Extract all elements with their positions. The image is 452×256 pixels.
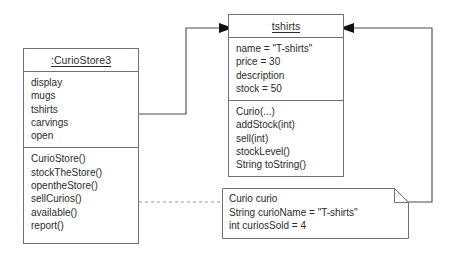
object-title-tshirts: tshirts [229,15,343,37]
operations-compartment-curiostore3: CurioStore() stockTheStore() opentheStor… [24,147,138,237]
operation-row: stockTheStore() [31,166,138,179]
note-line: String curioName = "T-shirts" [229,206,405,220]
operation-row: available() [31,206,138,219]
attributes-compartment-curiostore3: display mugs tshirts carvings open [24,71,138,147]
attribute-row: name = "T-shirts" [236,42,343,55]
operation-row: report() [31,219,138,232]
attribute-row: tshirts [31,103,138,116]
operations-compartment-tshirts: Curio(...) addStock(int) sell(int) stock… [229,100,343,176]
operation-row: addStock(int) [236,118,343,131]
object-title-curiostore3: :CurioStore3 [24,49,138,71]
attribute-row: stock = 50 [236,82,343,95]
attribute-row: open [31,129,138,142]
attribute-row: description [236,69,343,82]
operation-row: sellCurios() [31,192,138,205]
operation-row: opentheStore() [31,179,138,192]
note-line: int curiosSold = 4 [229,219,405,233]
attribute-row: carvings [31,116,138,129]
link-curiostore-to-tshirts [139,23,233,114]
attributes-compartment-tshirts: name = "T-shirts" price = 30 description… [229,37,343,100]
attribute-row: display [31,76,138,89]
operation-row: sell(int) [236,132,343,145]
uml-note[interactable]: Curio curio String curioName = "T-shirts… [222,188,409,239]
operation-row: Curio(...) [236,105,343,118]
diagram-canvas: :CurioStore3 display mugs tshirts carvin… [0,0,452,256]
operation-row: String toString() [236,158,343,171]
note-line: Curio curio [229,192,405,206]
object-box-tshirts[interactable]: tshirts name = "T-shirts" price = 30 des… [228,14,344,177]
operation-row: CurioStore() [31,152,138,165]
operation-row: stockLevel() [236,145,343,158]
note-body: Curio curio String curioName = "T-shirts… [229,192,405,233]
attribute-row: mugs [31,89,138,102]
attribute-row: price = 30 [236,55,343,68]
object-box-curiostore3[interactable]: :CurioStore3 display mugs tshirts carvin… [23,48,139,244]
